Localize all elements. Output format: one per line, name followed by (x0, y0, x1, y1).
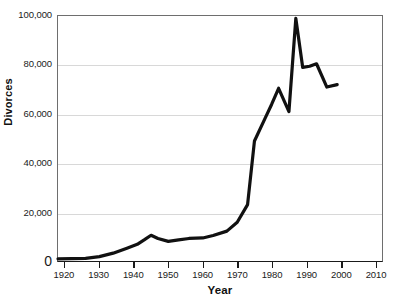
x-tick-mark-1940 (133, 262, 134, 268)
x-tick-mark-1990 (307, 262, 308, 268)
x-tick-mark-2000 (341, 262, 342, 268)
x-tick-mark-1970 (237, 262, 238, 268)
x-tick-label-2010: 2010 (353, 269, 399, 280)
y-tick-label-0: 0 (0, 253, 52, 269)
y-tick-label-100000: 100,000 (0, 9, 52, 20)
divorces-line-chart: 020,00040,00060,00080,000100,000 Divorce… (0, 0, 399, 308)
x-tick-mark-1980 (272, 262, 273, 268)
x-tick-mark-1930 (99, 262, 100, 268)
x-tick-mark-2010 (376, 262, 377, 268)
y-tick-label-20000: 20,000 (0, 207, 52, 218)
x-axis-title: Year (57, 284, 383, 296)
x-tick-mark-1950 (168, 262, 169, 268)
x-axis-tick-labels: 1920193019401950196019701980199020002010 (57, 262, 383, 286)
x-tick-mark-1960 (203, 262, 204, 268)
x-tick-mark-1920 (64, 262, 65, 268)
y-axis-title: Divorces (2, 32, 14, 172)
